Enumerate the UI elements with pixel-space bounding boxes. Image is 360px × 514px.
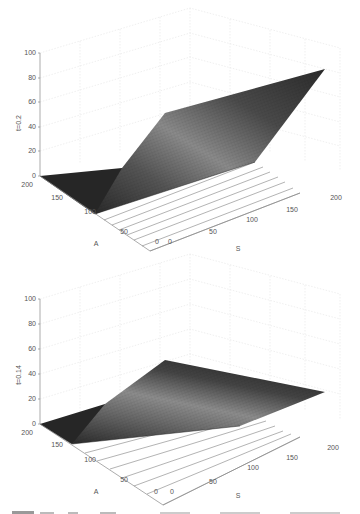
surface-plot-2: 100 80 60 40 20 0 t=0.14 200 150 100 50 bbox=[15, 254, 340, 505]
svg-text:20: 20 bbox=[28, 147, 36, 154]
svg-text:0: 0 bbox=[168, 238, 172, 245]
svg-text:100: 100 bbox=[247, 464, 259, 471]
svg-text:150: 150 bbox=[51, 194, 63, 201]
s-axis-label-plot-2: S bbox=[236, 492, 241, 499]
svg-text:0: 0 bbox=[170, 488, 174, 495]
svg-text:0: 0 bbox=[32, 420, 36, 427]
svg-text:50: 50 bbox=[209, 228, 217, 235]
svg-text:80: 80 bbox=[28, 320, 36, 327]
svg-text:200: 200 bbox=[21, 181, 33, 188]
svg-text:0: 0 bbox=[32, 172, 36, 179]
svg-text:100: 100 bbox=[24, 49, 36, 56]
s-axis-plot-2 bbox=[163, 437, 300, 505]
svg-text:100: 100 bbox=[24, 295, 36, 302]
svg-text:50: 50 bbox=[120, 476, 128, 483]
svg-text:100: 100 bbox=[84, 208, 96, 215]
s-axis-label-plot-1: S bbox=[236, 245, 241, 252]
a-axis-label-plot-2: A bbox=[94, 488, 99, 495]
z-axis-label-plot-1: t=0.2 bbox=[15, 115, 22, 131]
svg-text:60: 60 bbox=[28, 345, 36, 352]
svg-text:60: 60 bbox=[28, 98, 36, 105]
svg-text:50: 50 bbox=[120, 228, 128, 235]
s-ticks-plot-1: 0 50 100 150 200 bbox=[168, 194, 342, 245]
svg-text:40: 40 bbox=[28, 370, 36, 377]
surface-plot-1: 100 80 60 40 20 0 t=0.2 200 150 bbox=[15, 8, 342, 252]
figure: 100 80 60 40 20 0 t=0.2 200 150 bbox=[0, 0, 360, 514]
z-ticks-plot-2: 100 80 60 40 20 0 bbox=[24, 295, 40, 427]
svg-text:80: 80 bbox=[28, 74, 36, 81]
svg-text:0: 0 bbox=[154, 488, 158, 495]
svg-text:150: 150 bbox=[51, 441, 63, 448]
svg-text:200: 200 bbox=[330, 194, 342, 201]
z-ticks-plot-1: 100 80 60 40 20 0 bbox=[24, 49, 40, 179]
svg-text:150: 150 bbox=[286, 206, 298, 213]
svg-text:40: 40 bbox=[28, 123, 36, 130]
svg-text:20: 20 bbox=[28, 395, 36, 402]
a-axis-label-plot-1: A bbox=[94, 240, 99, 247]
svg-text:200: 200 bbox=[327, 444, 339, 451]
svg-text:150: 150 bbox=[286, 454, 298, 461]
svg-text:0: 0 bbox=[155, 238, 159, 245]
z-axis-label-plot-2: t=0.14 bbox=[15, 365, 22, 385]
s-ticks-plot-2: 0 50 100 150 200 bbox=[170, 444, 339, 495]
svg-text:100: 100 bbox=[84, 456, 96, 463]
svg-text:100: 100 bbox=[246, 216, 258, 223]
svg-text:50: 50 bbox=[209, 478, 217, 485]
svg-text:200: 200 bbox=[21, 429, 33, 436]
